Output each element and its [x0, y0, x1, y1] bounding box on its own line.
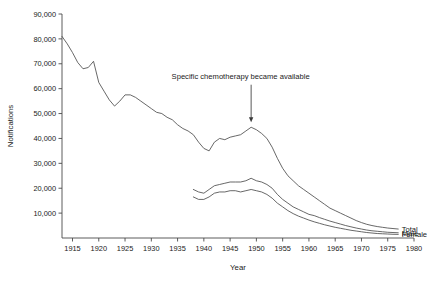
y-axis-tick-label: 70,000	[33, 59, 56, 68]
data-series-group	[62, 36, 398, 234]
series-label-female: Female	[402, 230, 427, 239]
x-axis-tick-label: 1920	[91, 244, 107, 253]
x-axis-tick-label: 1965	[327, 244, 343, 253]
x-axis-tick-label: 1930	[143, 244, 159, 253]
x-axis-tick-label: 1935	[169, 244, 185, 253]
series-line-total	[62, 36, 398, 229]
y-axis-tick-label: 30,000	[33, 159, 56, 168]
x-axis-tick-label: 1960	[301, 244, 317, 253]
y-axis-tick-label: 90,000	[33, 10, 56, 19]
x-axis-tick-label: 1945	[222, 244, 238, 253]
chart-canvas: 10,00020,00030,00040,00050,00060,00070,0…	[0, 0, 427, 290]
x-axis-tick-label: 1975	[380, 244, 396, 253]
y-axis-tick-label: 60,000	[33, 84, 56, 93]
x-axis-tick-label: 1950	[248, 244, 264, 253]
x-axis-tick-label: 1915	[64, 244, 80, 253]
y-axis-tick-label: 40,000	[33, 134, 56, 143]
y-axis-tick-label: 80,000	[33, 35, 56, 44]
y-axis-tick-label: 50,000	[33, 109, 56, 118]
x-axis-tick-label: 1980	[406, 244, 422, 253]
chart-annotation-text: Specific chemotherapy became available	[172, 72, 310, 81]
x-axis-tick-label: 1955	[274, 244, 290, 253]
series-labels-group: TotalMaleFemale	[402, 225, 427, 239]
x-axis-tick-label: 1925	[117, 244, 133, 253]
x-axis-tick-label: 1940	[196, 244, 212, 253]
axes-group	[62, 14, 414, 238]
y-axis-title: Notifications	[6, 105, 15, 148]
annotation-group: Specific chemotherapy became available	[172, 72, 310, 123]
y-axis-ticks: 10,00020,00030,00040,00050,00060,00070,0…	[33, 10, 62, 218]
y-axis-tick-label: 20,000	[33, 184, 56, 193]
x-axis-ticks: 1915192019251930193519401945195019551960…	[64, 238, 422, 253]
series-line-female	[193, 189, 398, 234]
annotation-arrow-head	[249, 117, 253, 122]
x-axis-tick-label: 1970	[353, 244, 369, 253]
x-axis-title: Year	[230, 263, 246, 272]
y-axis-tick-label: 10,000	[33, 209, 56, 218]
tb-notifications-line-chart: 10,00020,00030,00040,00050,00060,00070,0…	[0, 0, 427, 290]
